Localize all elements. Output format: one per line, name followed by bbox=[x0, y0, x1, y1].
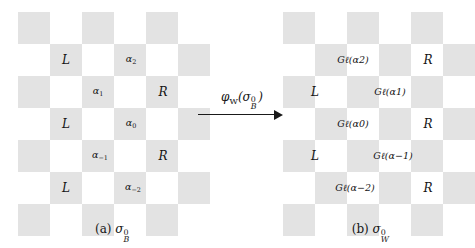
rcell-r0c5 bbox=[443, 12, 475, 44]
rcell-r3c3 bbox=[379, 108, 411, 140]
right-label-Gl-alpha1: Gℓ(α1) bbox=[374, 87, 405, 97]
right-label-L-2: L bbox=[311, 150, 319, 162]
right-label-Gl-alpha2: Gℓ(α2) bbox=[337, 55, 368, 65]
right-label-L-1: L bbox=[311, 86, 319, 98]
left-label-L-1: L bbox=[62, 54, 70, 66]
rcell-r5c3 bbox=[379, 172, 411, 204]
arrow-label-phi-W: φW(σ0B) bbox=[221, 91, 263, 104]
cell-r0c5 bbox=[178, 12, 210, 44]
left-label-R-1: R bbox=[158, 86, 167, 98]
cell-r1c0 bbox=[18, 44, 50, 76]
left-label-alpha-minus2: α−2 bbox=[125, 182, 141, 193]
rcell-r0c2 bbox=[347, 12, 379, 44]
rcell-r0c1 bbox=[315, 12, 347, 44]
cell-r2c1 bbox=[50, 76, 82, 108]
right-label-R-2: R bbox=[423, 118, 432, 130]
cell-r3c2 bbox=[82, 108, 114, 140]
left-label-R-2: R bbox=[158, 150, 167, 162]
rcell-r4c1-label-L bbox=[315, 140, 347, 172]
cell-r5c0 bbox=[18, 172, 50, 204]
arrow-head-icon bbox=[274, 110, 283, 120]
left-label-alpha0: α0 bbox=[126, 118, 137, 129]
rcell-r6c5 bbox=[443, 204, 475, 236]
rcell-r0c4 bbox=[411, 12, 443, 44]
cell-r5c4 bbox=[146, 172, 178, 204]
right-label-R-3: R bbox=[423, 182, 432, 194]
left-label-L-2: L bbox=[62, 118, 70, 130]
left-label-L-3: L bbox=[62, 182, 70, 194]
cell-r0c3 bbox=[114, 12, 146, 44]
rcell-r0c3 bbox=[379, 12, 411, 44]
rcell-r1c3 bbox=[379, 44, 411, 76]
left-label-alpha1: α1 bbox=[93, 86, 104, 97]
cell-r5c5 bbox=[178, 172, 210, 204]
cell-r4c1 bbox=[50, 140, 82, 172]
caption-left-panel: (a) σ0B bbox=[95, 222, 131, 236]
rcell-r5c0 bbox=[283, 172, 315, 204]
cell-r6c0 bbox=[18, 204, 50, 236]
rcell-r3c5 bbox=[443, 108, 475, 140]
left-checkerboard bbox=[18, 12, 210, 236]
cell-r4c5 bbox=[178, 140, 210, 172]
rcell-r2c4 bbox=[411, 76, 443, 108]
cell-r0c1 bbox=[50, 12, 82, 44]
cell-r6c4 bbox=[146, 204, 178, 236]
cell-r2c3 bbox=[114, 76, 146, 108]
cell-r5c2 bbox=[82, 172, 114, 204]
rcell-r2c1-label-L bbox=[315, 76, 347, 108]
cell-r0c2 bbox=[82, 12, 114, 44]
cell-r1c2 bbox=[82, 44, 114, 76]
rcell-r1c0 bbox=[283, 44, 315, 76]
cell-r6c1 bbox=[50, 204, 82, 236]
right-label-Gl-alpha-1: Gℓ(α−1) bbox=[373, 151, 412, 161]
cell-r6c5 bbox=[178, 204, 210, 236]
right-label-Gl-alpha-2: Gℓ(α−2) bbox=[335, 183, 374, 193]
rcell-r3c0 bbox=[283, 108, 315, 140]
arrow-line bbox=[198, 114, 276, 115]
rcell-r4c4 bbox=[411, 140, 443, 172]
right-checkerboard bbox=[283, 12, 475, 236]
cell-r1c5 bbox=[178, 44, 210, 76]
rcell-r5c5 bbox=[443, 172, 475, 204]
rcell-r2c5 bbox=[443, 76, 475, 108]
cell-r0c4 bbox=[146, 12, 178, 44]
rcell-r1c5 bbox=[443, 44, 475, 76]
rcell-r6c0 bbox=[283, 204, 315, 236]
rcell-r4c5 bbox=[443, 140, 475, 172]
rcell-r6c1 bbox=[315, 204, 347, 236]
cell-r2c0 bbox=[18, 76, 50, 108]
cell-r0c0 bbox=[18, 12, 50, 44]
rcell-r0c0 bbox=[283, 12, 315, 44]
cell-r3c4 bbox=[146, 108, 178, 140]
cell-r3c0 bbox=[18, 108, 50, 140]
right-label-R-1: R bbox=[423, 54, 432, 66]
left-label-alpha2: α2 bbox=[126, 54, 137, 65]
caption-right-panel: (b) σ0W bbox=[352, 222, 389, 236]
transform-arrow-group: φW(σ0B) bbox=[196, 88, 288, 130]
cell-r4c0 bbox=[18, 140, 50, 172]
cell-r1c4 bbox=[146, 44, 178, 76]
cell-r4c3 bbox=[114, 140, 146, 172]
right-label-Gl-alpha0: Gℓ(α0) bbox=[337, 119, 368, 129]
rcell-r6c4 bbox=[411, 204, 443, 236]
left-label-alpha-minus1: α−1 bbox=[92, 150, 108, 161]
